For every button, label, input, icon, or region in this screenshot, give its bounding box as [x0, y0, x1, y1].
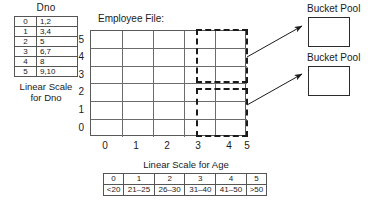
dno-value: 5 — [36, 37, 77, 47]
x-tick-label: 2 — [160, 140, 174, 151]
upper-dashed-region — [196, 29, 248, 83]
age-key: 0 — [104, 174, 124, 185]
employee-file-title: Employee File: — [98, 13, 164, 24]
x-tick-label: 1 — [129, 140, 143, 151]
age-key: 3 — [185, 174, 216, 185]
age-value: 21–25 — [124, 185, 155, 196]
age-value: 26–30 — [154, 185, 185, 196]
dno-key: 1 — [15, 27, 37, 37]
age-scale-block: Linear Scale for Age 0 1 2 3 4 5 <20 21–… — [103, 159, 269, 196]
dno-value: 1,2 — [36, 17, 77, 27]
bucket-pool-2-label: Bucket Pool — [307, 52, 360, 63]
x-tick-label: 3 — [191, 140, 205, 151]
age-scale-table: 0 1 2 3 4 5 <20 21–25 26–30 31–40 41–50 … — [103, 173, 267, 196]
table-row-keys: 0 1 2 3 4 5 — [104, 174, 267, 185]
dno-key: 2 — [15, 37, 37, 47]
dno-caption-line-2: for Dno — [8, 92, 84, 103]
grid-line-vertical — [122, 31, 123, 137]
dno-key: 5 — [15, 67, 37, 77]
age-value: 41–50 — [216, 185, 247, 196]
bucket-pool-1-box — [308, 17, 350, 47]
table-row-values: <20 21–25 26–30 31–40 41–50 >50 — [104, 185, 267, 196]
table-row: 1 3,4 — [15, 27, 78, 37]
age-key: 1 — [124, 174, 155, 185]
dno-scale-caption: Linear Scale for Dno — [8, 81, 84, 103]
dno-scale-block: Dno 0 1,2 1 3,4 2 5 3 6,7 4 8 — [8, 2, 84, 103]
employee-file-grid-wrap: 5 4 3 2 1 0 0 1 2 3 4 5 — [90, 30, 246, 136]
age-key: 5 — [246, 174, 266, 185]
dno-value: 3,4 — [36, 27, 77, 37]
dno-caption-line-1: Linear Scale — [8, 81, 84, 92]
bucket-pool-1-label: Bucket Pool — [307, 3, 360, 14]
grid-line-horizontal — [91, 83, 247, 84]
y-tick-label: 3 — [74, 69, 84, 80]
table-row: 4 8 — [15, 57, 78, 67]
dno-key: 3 — [15, 47, 37, 57]
bucket-pool-2-box — [308, 66, 350, 96]
dno-value: 9,10 — [36, 67, 77, 77]
y-tick-label: 0 — [74, 122, 84, 133]
table-row: 3 6,7 — [15, 47, 78, 57]
table-row: 0 1,2 — [15, 17, 78, 27]
x-tick-label: 4 — [222, 140, 236, 151]
table-row: 5 9,10 — [15, 67, 78, 77]
arrow-lower-region-to-pool-2 — [247, 74, 302, 105]
grid-line-vertical — [153, 31, 154, 137]
dno-key: 4 — [15, 57, 37, 67]
y-tick-label: 1 — [74, 104, 84, 115]
dno-scale-table: 0 1,2 1 3,4 2 5 3 6,7 4 8 5 9,10 — [14, 16, 78, 77]
age-value: <20 — [104, 185, 124, 196]
age-value: 31–40 — [185, 185, 216, 196]
dno-value: 8 — [36, 57, 77, 67]
table-row: 2 5 — [15, 37, 78, 47]
lower-dashed-region — [196, 88, 248, 137]
y-tick-label: 2 — [74, 86, 84, 97]
dno-scale-title: Dno — [8, 2, 84, 13]
age-key: 2 — [154, 174, 185, 185]
y-tick-label: 4 — [74, 51, 84, 62]
age-scale-title: Linear Scale for Age — [103, 159, 269, 170]
x-tick-label: 0 — [98, 140, 112, 151]
age-value: >50 — [246, 185, 266, 196]
dno-value: 6,7 — [36, 47, 77, 57]
grid-line-vertical — [184, 31, 185, 137]
age-key: 4 — [216, 174, 247, 185]
arrow-upper-region-to-pool-1 — [247, 26, 302, 57]
y-tick-label: 5 — [74, 34, 84, 45]
dno-key: 0 — [15, 17, 37, 27]
x-tick-label: 5 — [240, 140, 254, 151]
